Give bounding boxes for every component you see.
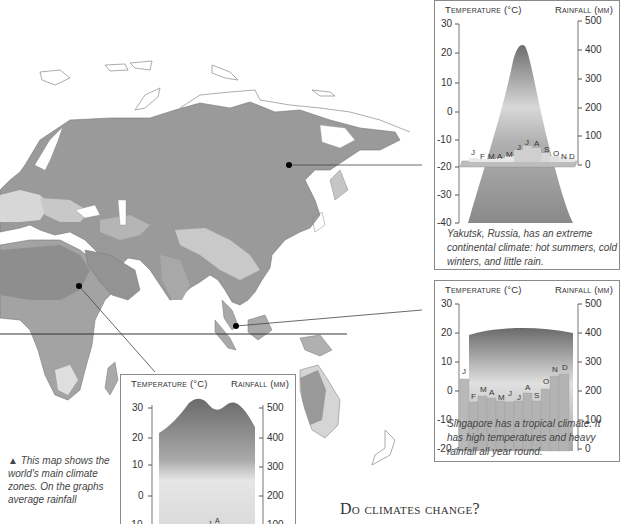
yakutsk-climate-chart: Temperature (°C) Rainfall (mm) 30 20 10 … [434,0,620,270]
rain-tick: 100 [267,519,284,524]
rain-tick: 300 [585,73,602,84]
temperature-axis-label: Temperature (°C) [445,4,522,15]
month-label: N [552,365,558,374]
month-label: J [517,143,521,152]
temp-tick: 20 [441,47,452,58]
rain-tick: 400 [267,432,284,443]
month-label: J [508,389,512,398]
madagascar [105,362,118,395]
month-label: F [480,152,485,161]
temperature-axis-label: Temperature (°C) [445,284,522,295]
month-label: A [497,152,502,161]
month-label: M [480,385,487,394]
rain-tick: 400 [585,327,602,338]
yakutsk-marker [286,162,292,168]
rain-tick: 100 [585,130,602,141]
rainfall-axis-label: Rainfall (mm) [555,284,613,295]
singapore-marker [233,323,239,329]
desert-marker [76,283,82,289]
rainfall-axis-label: Rainfall (mm) [555,4,613,15]
desert-chart-graphic [121,375,297,524]
temperature-axis-label: Temperature (°C) [131,378,208,389]
rain-tick: 200 [267,490,284,501]
month-label: A [534,139,539,148]
temp-tick: -10 [437,134,451,145]
rain-tick: 500 [585,298,602,309]
temp-tick: 10 [441,77,452,88]
section-heading: Do climates change? [340,500,480,518]
month-label: J [208,520,212,524]
temp-tick: 10 [441,356,452,367]
temp-tick: -20 [437,161,451,172]
temp-tick: 0 [447,106,453,117]
month-label: J [517,393,521,402]
month-label: J [525,138,529,147]
rain-tick: 500 [267,402,284,413]
temp-tick: -10 [128,519,142,524]
temp-tick: 20 [132,432,143,443]
month-label: N [561,152,567,161]
temp-tick: 0 [138,490,144,501]
month-label: F [471,392,476,401]
rain-tick: 200 [585,385,602,396]
temp-tick: 30 [441,298,452,309]
month-label: J [462,367,466,376]
month-label: O [543,377,549,386]
temp-tick: 30 [441,18,452,29]
month-label: M [488,152,495,161]
rain-tick: 0 [585,159,591,170]
rain-tick: 300 [267,461,284,472]
rain-tick: 300 [585,356,602,367]
month-label: D [569,152,575,161]
rain-tick: 500 [585,15,602,26]
borneo [248,315,272,340]
desert-climate-chart: Temperature (°C) Rainfall (mm) 30 20 10 … [120,374,296,524]
month-label: J [471,148,475,157]
singapore-climate-chart: Temperature (°C) Rainfall (mm) 30 20 10 … [434,280,620,462]
month-label: D [562,363,568,372]
month-label: M [506,150,513,159]
yakutsk-caption: Yakutsk, Russia, has an extreme continen… [447,227,619,269]
temp-tick: 10 [132,459,143,470]
singapore-caption: Singapore has a tropical climate. It has… [447,417,619,459]
month-label: S [534,391,539,400]
month-label: A [489,388,494,397]
sahara-desert-zone [0,245,90,300]
month-label: A [525,383,530,392]
temp-tick: 30 [132,402,143,413]
month-label: O [553,149,559,158]
rain-tick: 200 [585,102,602,113]
temp-tick: -30 [437,189,451,200]
month-label: S [544,145,549,154]
temp-tick: 20 [441,327,452,338]
new-guinea [300,335,332,356]
rain-tick: 400 [585,44,602,55]
month-label: M [498,393,505,402]
rainfall-axis-label: Rainfall (mm) [231,378,289,389]
month-label: A [215,517,220,524]
temp-tick: 0 [447,385,453,396]
map-caption: ▲ This map shows the world's main climat… [8,454,118,506]
